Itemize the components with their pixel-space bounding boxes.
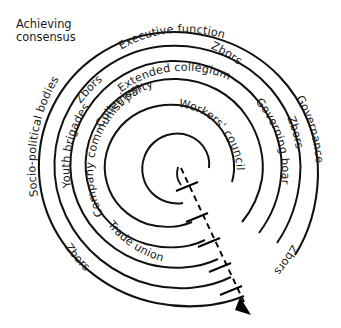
outward-arrow-group bbox=[176, 168, 251, 315]
label-zbors-upper-left: Zbors bbox=[73, 73, 105, 106]
free-label-group: Achieving consensus bbox=[16, 17, 76, 44]
label-company-communist-party: Company communist party bbox=[83, 77, 155, 219]
label-socio-political-bodies: Socio-political bodies bbox=[25, 74, 61, 198]
label-achieving-consensus-line2: consensus bbox=[16, 30, 76, 44]
outward-progress-arrow-line bbox=[181, 168, 244, 302]
spiral-arc-centre bbox=[142, 134, 209, 204]
spiral-diagram-svg: Executive function Zbors Governance Zbor… bbox=[0, 0, 341, 328]
label-workers-council: Workers' council bbox=[178, 97, 247, 171]
arrow-tick-4 bbox=[209, 263, 231, 272]
spiral-diagram-canvas: Executive function Zbors Governance Zbor… bbox=[0, 0, 341, 328]
label-achieving-consensus-line1: Achieving bbox=[16, 17, 72, 31]
label-executive-function: Executive function bbox=[116, 22, 227, 52]
label-trade-union: Trade union bbox=[104, 218, 165, 265]
spiral-arc-centre-hook bbox=[177, 167, 181, 185]
label-zbors-bottom-left: Zbors bbox=[62, 241, 93, 274]
label-zbors-bottom-right: Zbors bbox=[271, 243, 301, 278]
spiral-arc-collegium-outer bbox=[70, 61, 281, 268]
label-zbors-top: Zbors bbox=[209, 39, 244, 67]
